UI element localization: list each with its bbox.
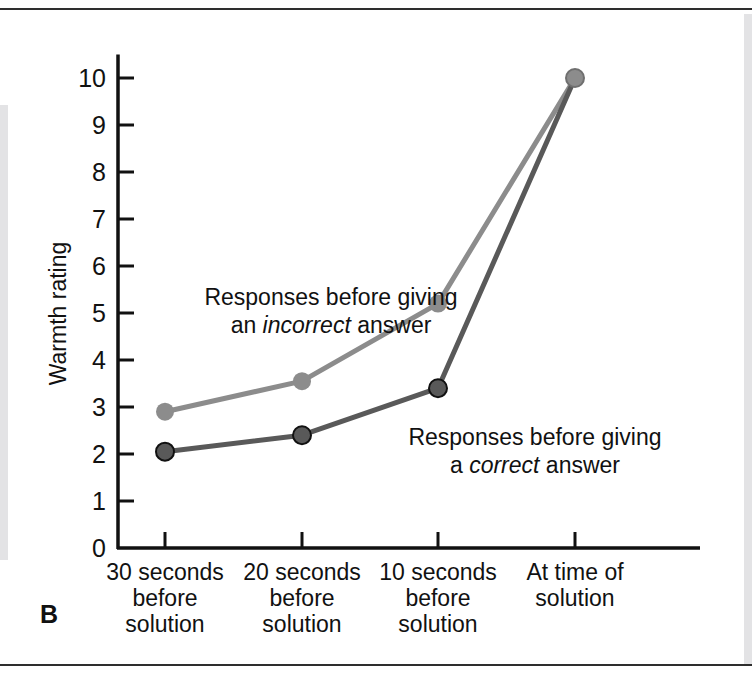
data-point-s0-0 <box>156 403 174 421</box>
x-tick-label-0-line: 30 seconds <box>90 560 240 586</box>
x-tick-label-1-line: before <box>227 586 377 612</box>
annotation-correct-line2-pre: a <box>450 452 469 478</box>
annotation-incorrect-line2: an incorrect answer <box>186 312 476 340</box>
y-tick-label-9: 9 <box>60 113 106 138</box>
y-tick-label-10: 10 <box>60 66 106 91</box>
x-tick-label-2-line: solution <box>363 612 513 638</box>
series-group <box>156 69 584 461</box>
x-tick-label-3-line: At time of <box>500 560 650 586</box>
y-axis-title: Warmth rating <box>45 214 72 414</box>
annotation-incorrect-line2-pre: an <box>231 312 263 338</box>
x-tick-label-2-line: 10 seconds <box>363 560 513 586</box>
figure-page: 012345678910 30 secondsbeforesolution20 … <box>0 0 752 677</box>
annotation-incorrect-emphasis: incorrect <box>263 312 351 338</box>
y-tick-label-0: 0 <box>60 536 106 561</box>
annotation-correct-series: Responses before giving a correct answer <box>390 424 680 479</box>
data-point-s1-0 <box>156 443 174 461</box>
x-tick-label-0-line: solution <box>90 612 240 638</box>
data-point-s1-1 <box>293 426 311 444</box>
x-tick-label-2-line: before <box>363 586 513 612</box>
y-tick-label-1: 1 <box>60 489 106 514</box>
annotation-correct-emphasis: correct <box>469 452 539 478</box>
x-tick-label-3: At time ofsolution <box>500 560 650 612</box>
x-tick-label-2: 10 secondsbeforesolution <box>363 560 513 637</box>
panel-letter-b: B <box>40 600 58 629</box>
annotation-correct-line2-post: answer <box>539 452 620 478</box>
x-tick-label-1: 20 secondsbeforesolution <box>227 560 377 637</box>
x-tick-label-1-line: solution <box>227 612 377 638</box>
annotation-incorrect-line2-post: answer <box>351 312 432 338</box>
data-point-shared-endpoint <box>566 69 584 87</box>
x-tick-label-1-line: 20 seconds <box>227 560 377 586</box>
y-tick-label-2: 2 <box>60 442 106 467</box>
x-tick-label-3-line: solution <box>500 586 650 612</box>
series-line-0 <box>165 78 575 412</box>
annotation-correct-line1: Responses before giving <box>390 424 680 452</box>
y-tick-label-8: 8 <box>60 160 106 185</box>
annotation-incorrect-line1: Responses before giving <box>186 284 476 312</box>
x-tick-label-0: 30 secondsbeforesolution <box>90 560 240 637</box>
annotation-correct-line2: a correct answer <box>390 452 680 480</box>
x-tick-label-0-line: before <box>90 586 240 612</box>
warmth-rating-line-chart: 012345678910 30 secondsbeforesolution20 … <box>0 0 752 677</box>
data-point-s1-2 <box>429 379 447 397</box>
data-point-s0-1 <box>293 372 311 390</box>
annotation-incorrect-series: Responses before giving an incorrect ans… <box>186 284 476 339</box>
